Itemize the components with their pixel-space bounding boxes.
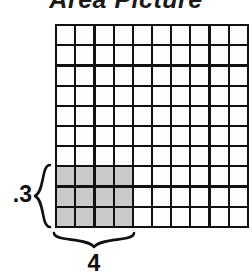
grid-cell	[134, 127, 151, 145]
grid-cell	[230, 67, 247, 85]
grid-cell	[153, 188, 170, 206]
grid-cell	[172, 46, 189, 64]
grid-cell-shaded	[96, 188, 113, 206]
grid-cell	[153, 147, 170, 165]
grid-cell	[191, 107, 208, 125]
grid-cell	[134, 26, 151, 44]
grid-cells	[55, 24, 249, 228]
grid-cell	[172, 67, 189, 85]
grid-cell	[230, 208, 247, 226]
grid-cell	[211, 26, 228, 44]
grid-cell-shaded	[96, 208, 113, 226]
grid-cell-shaded	[115, 188, 132, 206]
grid-cell	[153, 107, 170, 125]
grid-cell	[96, 147, 113, 165]
grid-cell	[191, 26, 208, 44]
grid-cell	[153, 67, 170, 85]
grid-cell	[153, 26, 170, 44]
grid-cell	[172, 107, 189, 125]
grid-cell	[211, 188, 228, 206]
grid-cell	[191, 188, 208, 206]
grid-cell	[211, 67, 228, 85]
grid-cell-shaded	[115, 167, 132, 185]
grid-cell	[115, 67, 132, 85]
grid-cell	[57, 67, 74, 85]
grid-cell	[57, 147, 74, 165]
grid-cell	[191, 67, 208, 85]
grid-cell	[115, 46, 132, 64]
grid-cell	[172, 147, 189, 165]
grid-cell	[230, 107, 247, 125]
grid-cell	[76, 26, 93, 44]
grid-cell	[134, 67, 151, 85]
width-brace	[52, 231, 136, 251]
figure-title: Area Picture	[0, 0, 252, 12]
grid-cell-shaded	[76, 208, 93, 226]
grid-cell	[230, 147, 247, 165]
grid-cell	[134, 208, 151, 226]
grid-cell	[57, 107, 74, 125]
area-model-grid	[55, 24, 249, 228]
figure-canvas: Area Picture .3 4	[0, 0, 252, 276]
grid-cell	[211, 147, 228, 165]
grid-cell	[134, 87, 151, 105]
grid-cell-shaded	[57, 167, 74, 185]
grid-cell-shaded	[76, 188, 93, 206]
grid-cell	[172, 167, 189, 185]
grid-cell	[230, 127, 247, 145]
grid-cell	[230, 167, 247, 185]
height-brace	[31, 163, 53, 229]
grid-cell	[211, 87, 228, 105]
grid-cell	[211, 167, 228, 185]
grid-cell	[172, 188, 189, 206]
grid-cell	[153, 208, 170, 226]
grid-cell	[191, 127, 208, 145]
grid-cell	[57, 127, 74, 145]
grid-cell	[153, 46, 170, 64]
grid-cell	[134, 46, 151, 64]
grid-cell	[134, 107, 151, 125]
grid-cell	[191, 167, 208, 185]
width-label: 4	[52, 251, 136, 275]
grid-cell	[191, 208, 208, 226]
grid-cell	[230, 26, 247, 44]
grid-cell	[230, 188, 247, 206]
grid-cell	[172, 87, 189, 105]
grid-cell-shaded	[115, 208, 132, 226]
grid-cell	[211, 46, 228, 64]
grid-cell	[96, 67, 113, 85]
grid-cell-shaded	[57, 188, 74, 206]
grid-cell	[115, 26, 132, 44]
grid-cell	[153, 87, 170, 105]
grid-cell	[172, 127, 189, 145]
grid-cell	[191, 46, 208, 64]
grid-cell	[76, 127, 93, 145]
grid-cell	[191, 87, 208, 105]
grid-cell	[115, 87, 132, 105]
grid-cell	[57, 87, 74, 105]
grid-cell	[115, 147, 132, 165]
grid-cell	[115, 127, 132, 145]
grid-cell	[153, 127, 170, 145]
grid-cell	[57, 26, 74, 44]
grid-cell	[191, 147, 208, 165]
grid-cell	[76, 107, 93, 125]
grid-cell-shaded	[57, 208, 74, 226]
grid-cell	[76, 46, 93, 64]
grid-cell	[134, 167, 151, 185]
grid-cell	[96, 46, 113, 64]
grid-cell	[96, 87, 113, 105]
grid-cell	[96, 127, 113, 145]
grid-cell	[172, 208, 189, 226]
grid-cell	[134, 188, 151, 206]
grid-cell	[230, 87, 247, 105]
grid-cell-shaded	[76, 167, 93, 185]
grid-cell-shaded	[96, 167, 113, 185]
grid-cell	[153, 167, 170, 185]
grid-cell	[211, 208, 228, 226]
height-label: .3	[2, 182, 32, 206]
grid-cell	[76, 147, 93, 165]
grid-cell	[211, 107, 228, 125]
grid-cell	[96, 107, 113, 125]
grid-cell	[211, 127, 228, 145]
